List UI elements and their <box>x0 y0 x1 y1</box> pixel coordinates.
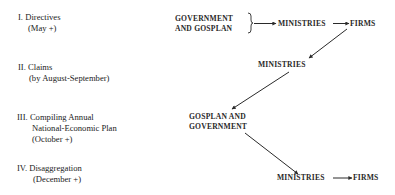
arrows-layer <box>0 0 395 195</box>
arrow-gosplan-to-ministries <box>245 133 298 174</box>
arrow-ministries-to-gosplan <box>232 72 289 109</box>
arrow-firms-to-ministries <box>309 29 347 58</box>
right-brace <box>248 13 253 33</box>
